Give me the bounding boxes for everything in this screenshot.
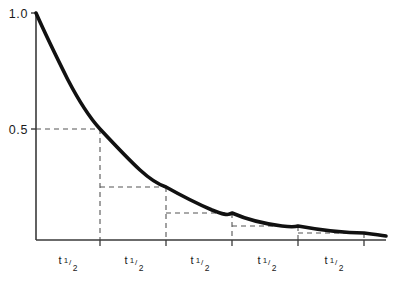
x-label-5-main: t (324, 254, 327, 266)
x-label-3-denominator: 2 (205, 263, 210, 273)
x-label-4-denominator: 2 (272, 263, 277, 273)
y-tick-label-0-5: 0.5 (9, 123, 28, 137)
half-life-decay-chart: 1.0 0.5 t 1 / 2 t 1 / 2 t 1 / 2 t 1 / 2 (0, 0, 409, 283)
x-label-3-main: t (190, 254, 193, 266)
x-label-5-denominator: 2 (339, 263, 344, 273)
x-label-4-main: t (257, 254, 260, 266)
x-label-1-main: t (58, 254, 61, 266)
x-label-1-denominator: 2 (73, 263, 78, 273)
x-label-2-main: t (124, 254, 127, 266)
x-label-2-denominator: 2 (139, 263, 144, 273)
y-tick-label-1-0: 1.0 (9, 7, 28, 21)
